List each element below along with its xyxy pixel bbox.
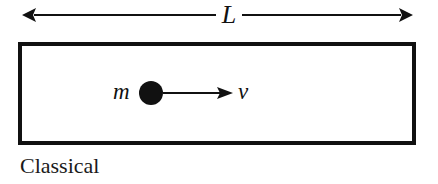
length-label: L xyxy=(216,1,242,29)
velocity-label: v xyxy=(238,79,248,105)
particle-mass-icon xyxy=(139,81,163,105)
velocity-arrow xyxy=(163,87,233,99)
classical-particle-in-box-figure: L m v Classical xyxy=(0,0,438,184)
mass-label: m xyxy=(113,79,130,105)
right-arrowhead-icon xyxy=(399,8,413,22)
left-arrowhead-icon xyxy=(22,8,36,22)
figure-caption: Classical xyxy=(20,153,99,179)
